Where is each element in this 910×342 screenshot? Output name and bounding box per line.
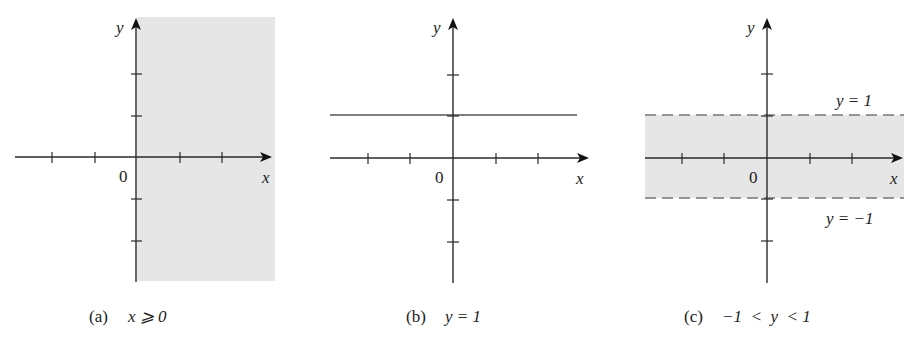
caption-label: (a) — [89, 307, 108, 326]
caption-label: (c) — [684, 307, 703, 326]
y-axis-label: y — [745, 18, 755, 37]
y-axis-label: y — [431, 18, 441, 37]
origin-label: 0 — [749, 168, 758, 187]
shaded-region-x-nonnegative — [137, 17, 275, 281]
y-axis-label: y — [114, 18, 124, 37]
x-axis-label: x — [261, 168, 270, 187]
x-axis-label: x — [889, 169, 898, 188]
panel-b: y x 0 (b) y = 1 — [330, 18, 587, 326]
shaded-region-strip — [645, 115, 904, 198]
origin-label: 0 — [435, 168, 444, 187]
caption-expression: x ⩾ 0 — [127, 307, 167, 326]
caption-label: (b) — [406, 307, 426, 326]
panel-c: y x 0 y = 1 y = −1 (c) −1 < y < 1 — [645, 18, 904, 326]
caption-expression: y = 1 — [443, 307, 481, 326]
upper-boundary-label: y = 1 — [834, 91, 872, 110]
panel-a: y x 0 (a) x ⩾ 0 — [15, 17, 275, 326]
origin-label: 0 — [119, 167, 128, 186]
figure-canvas: y x 0 (a) x ⩾ 0 y x 0 (b) y = 1 — [0, 0, 910, 342]
x-axis-label: x — [575, 169, 584, 188]
lower-boundary-label: y = −1 — [824, 209, 874, 228]
caption-expression: −1 < y < 1 — [722, 307, 811, 326]
